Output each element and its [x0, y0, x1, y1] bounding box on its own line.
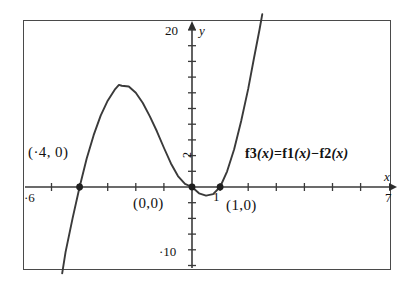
point-label-0-0: (0,0): [133, 196, 164, 211]
y-axis-arrow: [188, 21, 196, 30]
x-axis-title: x: [384, 170, 390, 183]
y-axis-two-tick-label: 2: [181, 152, 193, 158]
function-formula-annotation: f3(x)=f1(x)−f2(x): [245, 147, 348, 161]
function-curve-f3: [62, 14, 262, 273]
x-axis-right-tick-label: 7: [385, 191, 392, 204]
point-label-minus4-0: (·4, 0): [28, 145, 68, 160]
marked-point-dot: [76, 184, 83, 191]
formula-equals: =: [274, 146, 282, 161]
y-axis-top-tick-label: 20: [165, 24, 178, 37]
y-axis-bottom-tick-label: ·10: [159, 245, 176, 258]
formula-var-2: (x): [294, 146, 311, 161]
formula-var-1: (x): [257, 146, 274, 161]
formula-var-3: (x): [331, 146, 348, 161]
y-axis-title: y: [199, 24, 205, 37]
formula-f3: f3: [245, 146, 257, 161]
formula-f2: f2: [319, 146, 331, 161]
graph-figure: 20 y ·10 2 ·6 7 x 1 (·4, 0) (0,0) (1,0) …: [0, 0, 414, 288]
x-axis-one-tick-label: 1: [213, 190, 220, 203]
x-axis-left-tick-label: ·6: [24, 191, 35, 204]
point-label-1-0: (1,0): [226, 198, 257, 213]
marked-point-dot: [189, 184, 196, 191]
formula-f1: f1: [282, 146, 294, 161]
